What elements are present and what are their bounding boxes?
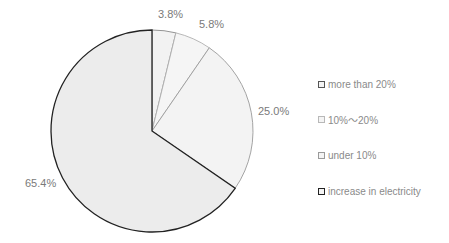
legend-item-10-20: 10%～20% (318, 113, 378, 125)
data-label-under-10: 25.0% (258, 105, 289, 117)
legend-label: under 10% (328, 150, 376, 161)
pie-chart (0, 0, 449, 243)
legend-swatch-icon (318, 116, 325, 123)
data-label-10-20: 5.8% (199, 18, 224, 30)
legend-label: more than 20% (328, 79, 396, 90)
pie-slices (51, 30, 253, 232)
legend-label: 10%～20% (328, 112, 378, 127)
legend-swatch-icon (318, 152, 325, 159)
legend-label: increase in electricity (328, 186, 421, 197)
legend-item-more-than-20: more than 20% (318, 78, 396, 90)
legend-swatch-icon (318, 81, 325, 88)
legend-item-under-10: under 10% (318, 149, 376, 161)
legend-item-increase-in-electricity: increase in electricity (318, 185, 421, 197)
legend-swatch-icon (318, 188, 325, 195)
data-label-increase-in-electricity: 65.4% (25, 177, 56, 189)
data-label-more-than-20: 3.8% (158, 8, 183, 20)
